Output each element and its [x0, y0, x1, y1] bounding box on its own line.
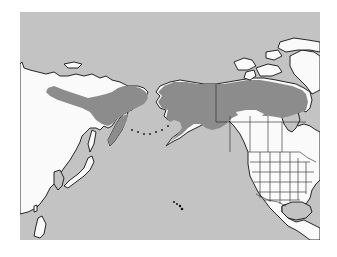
taiwan: [34, 205, 37, 212]
map-canvas: [20, 12, 320, 240]
range-map: North Pacific: northeast Asia, Alaska, C…: [20, 12, 320, 240]
